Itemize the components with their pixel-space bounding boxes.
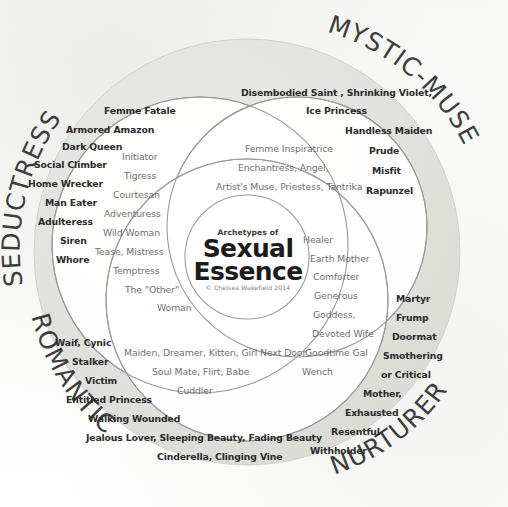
romantic-outer-word: Victim [85,376,117,386]
seductress-inner-word: Courtesan [113,190,160,200]
romantic-outer-word: Stalker [72,357,108,367]
seductress-inner-word: The "Other" [125,285,179,295]
seductress-outer-word: Whore [56,255,89,265]
nurturer-inner-word: Goodtime Gal [305,348,368,358]
romantic-outer-word: Cinderella, Clinging Vine [157,452,282,462]
seductress-outer-word: Armored Amazon [66,125,154,135]
mystic-muse-outer-word: Prude [369,146,399,156]
seductress-outer-word: Dark Queen [62,142,122,152]
seductress-inner-word: Woman [157,303,191,313]
romantic-inner-word: Cuddler [177,386,213,396]
seductress-inner-word: Tease, Mistress [95,247,164,257]
seductress-inner-word: Wild Woman [103,228,160,238]
nurturer-inner-word: Devoted Wife [312,329,374,339]
mystic-muse-outer-word: Disembodied Saint , Shrinking Violet, [241,88,432,98]
mystic-muse-inner-word: Artist's Muse, Priestess, Tantrika [216,182,362,192]
seductress-inner-word: Tigress [124,171,156,181]
nurturer-outer-word: Frump [396,313,429,323]
romantic-inner-word: Maiden, Dreamer, Kitten, Girl Next Door [124,348,306,358]
seductress-inner-word: Temptress [113,266,160,276]
nurturer-inner-word: Earth Mother [310,254,369,264]
seductress-outer-word: Femme Fatale [104,106,176,116]
core-title-line-2: Essence [191,259,305,285]
mystic-muse-inner-word: Enchantress, Angel, [238,163,328,173]
seductress-outer-word: Adulteress [38,217,93,227]
nurturer-outer-word: Resentful [331,427,380,437]
seductress-outer-word: Siren [60,236,87,246]
seductress-outer-word: Man Eater [45,198,97,208]
nurturer-outer-word: Exhausted [345,408,398,418]
mystic-muse-outer-word: Misfit [372,166,401,176]
romantic-outer-word: Waif, Cynic [55,338,111,348]
seductress-inner-word: Initiator [122,152,157,162]
mystic-muse-outer-word: Ice Princess [306,106,367,116]
mystic-muse-outer-word: Rapunzel [366,186,413,196]
nurturer-inner-word: Comforter [313,272,359,282]
nurturer-outer-word: or Critical [381,370,431,380]
romantic-outer-word: Walking Wounded [88,414,180,424]
seductress-outer-word: Social Climber [34,160,107,170]
romantic-inner-word: Soul Mate, Flirt, Babe [152,367,249,377]
nurturer-outer-word: Smothering [383,351,443,361]
nurturer-inner-word: Healer [303,235,333,245]
nurturer-inner-word: Goddess, [313,310,355,320]
nurturer-inner-word: Generous [314,291,358,301]
nurturer-outer-word: Martyr [396,294,430,304]
mystic-muse-outer-word: Handless Maiden [345,126,432,136]
archetypes-diagram: SEDUCTRESS MYSTIC-MUSE ROMANTIC NURTURER… [0,0,508,507]
romantic-outer-word: Jealous Lover, Sleeping Beauty, Fading B… [86,433,322,443]
nurturer-outer-word: Withholder [310,446,367,456]
mystic-muse-inner-word: Femme Inspiratrice [245,144,333,154]
romantic-outer-word: Entitled Princess [66,395,152,405]
nurturer-inner-word: Wench [302,367,333,377]
nurturer-outer-word: Doormat [392,332,436,342]
seductress-outer-word: Home Wrecker [28,179,103,189]
seductress-inner-word: Adventuress [104,209,161,219]
core-copyright: © Chelsea Wakefield 2014 [199,285,297,291]
nurturer-outer-word: Mother, [363,389,402,399]
